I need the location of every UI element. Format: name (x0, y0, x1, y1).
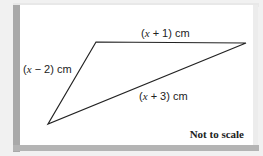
side-label-left: (x − 2) cm (23, 63, 72, 75)
variable: x (143, 90, 148, 102)
side-label-top: (x + 1) cm (141, 27, 190, 39)
diagram-canvas: (x + 1) cm (x − 2) cm (x + 3) cm Not to … (0, 0, 263, 156)
side-label-text: + 3) cm (151, 90, 188, 102)
not-to-scale-note: Not to scale (190, 128, 244, 140)
variable: x (145, 27, 150, 39)
side-label-hypotenuse: (x + 3) cm (139, 90, 188, 102)
side-label-text: − 2) cm (35, 63, 72, 75)
variable: x (27, 63, 32, 75)
side-label-text: + 1) cm (153, 27, 190, 39)
